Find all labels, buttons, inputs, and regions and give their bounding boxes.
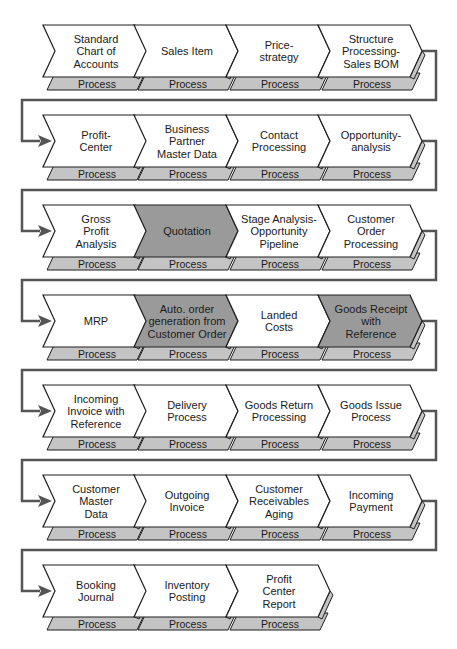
process-step: CustomerOrderProcessingProcess xyxy=(318,205,425,270)
step-title-line: Invoice xyxy=(170,501,205,513)
process-step: ProfitCenterReportProcess xyxy=(226,565,333,630)
process-label: Process xyxy=(353,438,391,450)
process-label: Process xyxy=(169,348,207,360)
process-step: StructureProcessing-Sales BOMProcess xyxy=(318,25,425,90)
step-title-line: Customer xyxy=(347,213,395,225)
step-title-line: analysis xyxy=(351,141,391,153)
process-label: Process xyxy=(353,348,391,360)
process-label: Process xyxy=(261,618,299,630)
arrow-icon xyxy=(38,225,52,237)
process-label: Process xyxy=(78,438,116,450)
step-title-line: Payment xyxy=(349,501,392,513)
step-title-line: Receivables xyxy=(249,495,309,507)
process-step: LandedCostsProcess xyxy=(226,295,333,360)
step-title-line: Processing xyxy=(252,411,306,423)
arrow-icon xyxy=(38,135,52,147)
process-label: Process xyxy=(261,438,299,450)
process-step: DeliveryProcessProcess xyxy=(134,385,241,450)
step-title-line: Customer xyxy=(72,483,120,495)
process-step: Profit-CenterProcess xyxy=(43,115,150,180)
step-title-line: Accounts xyxy=(73,58,119,70)
step-title-line: Gross xyxy=(81,213,111,225)
step-title-line: Data xyxy=(84,508,108,520)
step-title-line: Structure xyxy=(349,33,394,45)
step-title-line: Sales Item xyxy=(161,45,213,57)
process-label: Process xyxy=(353,78,391,90)
step-title-line: generation from xyxy=(148,315,225,327)
process-label: Process xyxy=(169,618,207,630)
step-title-line: Opportunity xyxy=(251,225,308,237)
process-label: Process xyxy=(169,78,207,90)
process-step: IncomingInvoice withReferenceProcess xyxy=(43,385,150,450)
step-title-line: Journal xyxy=(78,591,114,603)
step-title-line: Profit xyxy=(266,573,292,585)
process-step: Price-strategyProcess xyxy=(226,25,333,90)
step-title-line: Invoice with xyxy=(67,405,124,417)
process-label: Process xyxy=(78,528,116,540)
process-label: Process xyxy=(261,258,299,270)
arrow-icon xyxy=(38,495,52,507)
step-title-line: Sales BOM xyxy=(343,58,399,70)
process-label: Process xyxy=(78,258,116,270)
step-title-line: Booking xyxy=(76,579,116,591)
arrow-icon xyxy=(38,315,52,327)
process-label: Process xyxy=(169,438,207,450)
step-title-line: Processing- xyxy=(342,45,400,57)
process-label: Process xyxy=(78,168,116,180)
process-step: OutgoingInvoiceProcess xyxy=(134,475,241,540)
process-step: Opportunity-analysisProcess xyxy=(318,115,425,180)
process-label: Process xyxy=(169,258,207,270)
process-step: GrossProfitAnalysisProcess xyxy=(43,205,150,270)
process-label: Process xyxy=(169,168,207,180)
step-title-line: Aging xyxy=(265,508,293,520)
step-title-line: Reference xyxy=(346,328,397,340)
process-step: IncomingPaymentProcess xyxy=(318,475,425,540)
process-label: Process xyxy=(78,618,116,630)
step-title-line: Order xyxy=(357,225,385,237)
process-step: StandardChart ofAccountsProcess xyxy=(43,25,150,90)
process-label: Process xyxy=(353,258,391,270)
arrow-icon xyxy=(38,585,52,597)
process-label: Process xyxy=(261,168,299,180)
process-label: Process xyxy=(261,528,299,540)
process-step: BookingJournalProcess xyxy=(43,565,150,630)
step-title-line: strategy xyxy=(259,51,299,63)
step-title-line: Incoming xyxy=(349,489,394,501)
step-title-line: Master Data xyxy=(157,148,218,160)
process-label: Process xyxy=(261,348,299,360)
step-title-line: Stage Analysis- xyxy=(241,213,317,225)
step-title-line: Goods Return xyxy=(245,399,313,411)
step-title-line: Price- xyxy=(265,39,294,51)
step-title-line: Chart of xyxy=(76,45,116,57)
step-title-line: Profit- xyxy=(81,129,111,141)
step-title-line: Contact xyxy=(260,129,298,141)
step-title-line: Goods Receipt xyxy=(335,303,408,315)
process-label: Process xyxy=(169,528,207,540)
process-step: Auto. ordergeneration fromCustomer Order… xyxy=(134,295,241,360)
step-title-line: Pipeline xyxy=(259,238,298,250)
process-step: Goods ReturnProcessingProcess xyxy=(226,385,333,450)
process-step: BusinessPartnerMaster DataProcess xyxy=(134,115,241,180)
step-title-line: Costs xyxy=(265,321,294,333)
step-title-line: Process xyxy=(167,411,207,423)
process-step: Goods ReceiptwithReferenceProcess xyxy=(318,295,425,360)
step-title-line: Report xyxy=(262,598,295,610)
step-title-line: Process xyxy=(351,411,391,423)
process-step: MRPProcess xyxy=(43,295,150,360)
step-title-line: Master xyxy=(79,495,113,507)
step-title-line: Inventory xyxy=(164,579,210,591)
step-title-line: Quotation xyxy=(163,225,211,237)
process-step: InventoryPostingProcess xyxy=(134,565,241,630)
step-title-line: Processing xyxy=(344,238,398,250)
step-title-line: MRP xyxy=(84,315,108,327)
step-title-line: Profit xyxy=(83,225,109,237)
step-title-line: Center xyxy=(262,585,295,597)
step-title-line: Customer Order xyxy=(148,328,227,340)
step-title-line: Processing xyxy=(252,141,306,153)
step-title-line: Standard xyxy=(74,33,119,45)
process-label: Process xyxy=(353,528,391,540)
step-title-line: Delivery xyxy=(167,399,207,411)
step-title-line: Customer xyxy=(255,483,303,495)
step-title-line: Outgoing xyxy=(165,489,210,501)
step-title-line: Center xyxy=(79,141,112,153)
